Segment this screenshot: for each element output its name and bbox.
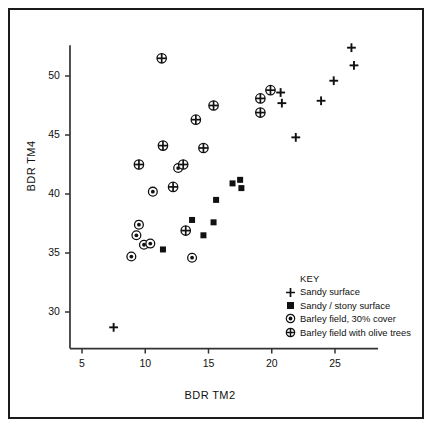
figure-frame: BDR TM4 BDR TM2 KEY Sandy surface Sandy …	[8, 8, 424, 419]
data-point	[135, 220, 144, 229]
data-point	[266, 85, 275, 94]
data-point	[168, 182, 177, 191]
data-point	[317, 96, 326, 105]
data-point	[179, 160, 188, 169]
data-point	[347, 43, 356, 52]
data-point	[191, 115, 200, 124]
data-point	[109, 323, 118, 332]
data-point	[188, 253, 197, 262]
y-axis-tick-label: 50	[36, 69, 60, 81]
legend-item-sandy-stony-surface: Sandy / stony surface	[282, 299, 411, 312]
x-axis-tick-label: 5	[67, 357, 97, 369]
x-axis-tick-label: 15	[194, 357, 224, 369]
legend-label: Barley field with olive trees	[300, 326, 411, 339]
legend-label: Sandy surface	[300, 285, 360, 298]
plus-marker-icon	[282, 287, 298, 298]
data-point	[209, 101, 218, 110]
legend-label: Sandy / stony surface	[300, 299, 390, 312]
legend-label: Barley field, 30% cover	[300, 312, 396, 325]
data-point	[213, 197, 219, 203]
data-point	[238, 185, 244, 191]
legend-item-barley-30-cover: Barley field, 30% cover	[282, 312, 411, 325]
legend: KEY Sandy surface Sandy / stony surface	[282, 272, 411, 339]
data-point	[200, 232, 206, 238]
data-point	[157, 54, 166, 63]
data-point	[277, 99, 286, 108]
filled-square-marker-icon	[282, 300, 298, 311]
x-axis-tick-label: 10	[130, 357, 160, 369]
y-axis-tick-label: 40	[36, 187, 60, 199]
data-point	[276, 88, 285, 97]
data-point	[211, 219, 217, 225]
data-point	[199, 143, 208, 152]
y-axis-tick-label: 45	[36, 128, 60, 140]
y-axis-tick-label: 30	[36, 305, 60, 317]
legend-item-sandy-surface: Sandy surface	[282, 285, 411, 298]
data-point	[350, 61, 359, 70]
data-point	[291, 133, 300, 142]
circled-plus-marker-icon	[282, 327, 298, 338]
y-axis-tick-label: 35	[36, 246, 60, 258]
data-point	[134, 160, 143, 169]
legend-title: KEY	[300, 272, 411, 285]
data-point	[127, 252, 136, 261]
data-point	[329, 76, 338, 85]
data-point	[237, 177, 243, 183]
data-point	[146, 239, 155, 248]
data-point	[158, 141, 167, 150]
data-point	[189, 217, 195, 223]
data-point	[148, 187, 157, 196]
data-point	[160, 246, 166, 252]
data-point	[256, 94, 265, 103]
data-point	[181, 226, 190, 235]
x-axis-tick-label: 20	[257, 357, 287, 369]
series-circled-plus	[134, 54, 275, 236]
x-axis-tick-label: 25	[320, 357, 350, 369]
data-point	[230, 180, 236, 186]
circled-dot-marker-icon	[282, 313, 298, 324]
data-point	[256, 108, 265, 117]
x-axis-title: BDR TM2	[110, 389, 310, 401]
data-point	[132, 231, 141, 240]
legend-item-barley-olive-trees: Barley field with olive trees	[282, 326, 411, 339]
